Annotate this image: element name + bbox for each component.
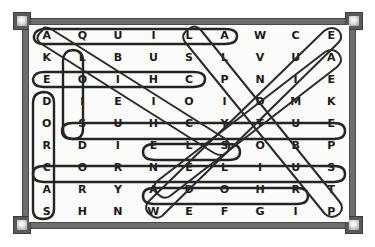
grid-cell: U xyxy=(136,47,172,69)
grid-cell: E xyxy=(171,200,207,222)
grid-cell: I xyxy=(100,69,136,91)
grid-cell: B xyxy=(278,134,314,156)
grid-cell: U xyxy=(278,113,314,135)
frame-bar-left xyxy=(22,18,29,229)
grid-cell: K xyxy=(29,47,65,69)
grid-cell: T xyxy=(313,178,349,200)
grid-cell: T xyxy=(242,113,278,135)
grid-cell: P xyxy=(313,134,349,156)
grid-cell: N xyxy=(242,69,278,91)
grid-cell: N xyxy=(136,156,172,178)
grid-cell: S xyxy=(65,113,101,135)
grid-cell: I xyxy=(65,91,101,113)
grid-cell: E xyxy=(29,69,65,91)
grid-cell: E xyxy=(313,113,349,135)
frame-bar-right xyxy=(349,18,356,229)
grid-cell: I xyxy=(207,91,243,113)
grid-cell: P xyxy=(207,69,243,91)
grid-cell: O xyxy=(65,156,101,178)
grid-cell: L xyxy=(171,134,207,156)
grid-cell: U xyxy=(100,25,136,47)
grid-cell: N xyxy=(100,200,136,222)
grid-cell: D xyxy=(29,91,65,113)
puzzle-paper: AQUILAWCEKLBUSLVUAEOIHCPNIEDIEIOIDMKOSUH… xyxy=(29,25,349,222)
grid-cell: W xyxy=(242,25,278,47)
grid-cell: I xyxy=(278,69,314,91)
letter-grid: AQUILAWCEKLBUSLVUAEOIHCPNIEDIEIOIDMKOSUH… xyxy=(29,25,349,222)
grid-cell: E xyxy=(100,91,136,113)
grid-cell: R xyxy=(100,156,136,178)
grid-cell: W xyxy=(136,200,172,222)
grid-cell: O xyxy=(171,91,207,113)
grid-cell: A xyxy=(313,47,349,69)
grid-cell: P xyxy=(313,200,349,222)
grid-cell: H xyxy=(136,113,172,135)
grid-cell: E xyxy=(313,69,349,91)
grid-cell: R xyxy=(29,134,65,156)
grid-cell: G xyxy=(242,200,278,222)
grid-cell: A xyxy=(29,25,65,47)
grid-cell: H xyxy=(65,200,101,222)
grid-cell: C xyxy=(278,25,314,47)
grid-cell: U xyxy=(100,113,136,135)
stud-core xyxy=(349,16,359,26)
frame-bar-bottom xyxy=(22,222,356,229)
grid-cell: Y xyxy=(100,178,136,200)
grid-cell: I xyxy=(242,156,278,178)
grid-cell: U xyxy=(278,47,314,69)
grid-cell: E xyxy=(171,156,207,178)
grid-cell: O xyxy=(29,113,65,135)
frame-bar-top xyxy=(22,18,356,25)
grid-cell: M xyxy=(278,91,314,113)
grid-cell: R xyxy=(278,178,314,200)
grid-cell: S xyxy=(171,47,207,69)
grid-cell: S xyxy=(313,156,349,178)
grid-cell: U xyxy=(278,156,314,178)
grid-cell: D xyxy=(242,91,278,113)
grid-cell: B xyxy=(100,47,136,69)
grid-cell: C xyxy=(29,156,65,178)
stud-core xyxy=(17,220,27,230)
grid-cell: I xyxy=(278,200,314,222)
grid-cell: D xyxy=(171,178,207,200)
grid-cell: O xyxy=(207,178,243,200)
grid-cell: Y xyxy=(207,113,243,135)
grid-cell: O xyxy=(65,69,101,91)
grid-cell: A xyxy=(207,25,243,47)
word-search-screenshot: AQUILAWCEKLBUSLVUAEOIHCPNIEDIEIOIDMKOSUH… xyxy=(0,0,375,247)
grid-cell: V xyxy=(242,47,278,69)
grid-cell: E xyxy=(313,25,349,47)
grid-cell: S xyxy=(29,200,65,222)
grid-cell: D xyxy=(65,134,101,156)
grid-cell: I xyxy=(100,134,136,156)
grid-cell: L xyxy=(65,47,101,69)
grid-cell: A xyxy=(29,178,65,200)
grid-cell: S xyxy=(207,134,243,156)
grid-cell: L xyxy=(171,25,207,47)
stud-core xyxy=(349,220,359,230)
grid-cell: F xyxy=(207,200,243,222)
grid-cell: Q xyxy=(65,25,101,47)
grid-cell: C xyxy=(171,113,207,135)
grid-cell: A xyxy=(136,178,172,200)
grid-cell: R xyxy=(65,178,101,200)
grid-cell: H xyxy=(136,69,172,91)
stud-core xyxy=(17,16,27,26)
grid-cell: I xyxy=(136,91,172,113)
grid-cell: L xyxy=(207,156,243,178)
grid-cell: H xyxy=(242,178,278,200)
grid-cell: L xyxy=(207,47,243,69)
grid-cell: K xyxy=(313,91,349,113)
grid-cell: C xyxy=(171,69,207,91)
grid-cell: I xyxy=(136,25,172,47)
grid-cell: E xyxy=(136,134,172,156)
grid-cell: O xyxy=(242,134,278,156)
